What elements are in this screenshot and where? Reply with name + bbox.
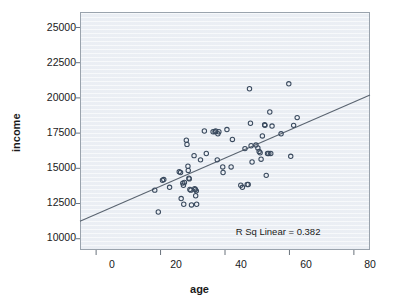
x-tick-label: 60 [300,258,312,270]
y-tick-label: 17500 [18,126,76,138]
x-tick-label: 80 [364,258,376,270]
plot-area [80,12,370,250]
y-tick-label: 22500 [18,56,76,68]
y-tick-label: 20000 [18,91,76,103]
x-axis-label: age [0,283,399,295]
y-tick-label: 25000 [18,21,76,33]
x-axis-ticks [96,250,354,255]
y-tick-label: 10000 [18,231,76,243]
y-tick-label: 15000 [18,161,76,173]
x-tick-label: 40 [235,258,247,270]
scatter-plot-figure: income 25000 22500 20000 17500 15000 125… [0,0,399,302]
x-tick-label: 0 [109,258,115,270]
background-texture [81,13,369,249]
x-tick-label: 20 [170,258,182,270]
y-axis-tick-labels: 25000 22500 20000 17500 15000 12500 1000… [16,0,76,302]
y-tick-label: 12500 [18,196,76,208]
r-squared-annotation: R Sq Linear = 0.382 [236,226,321,237]
